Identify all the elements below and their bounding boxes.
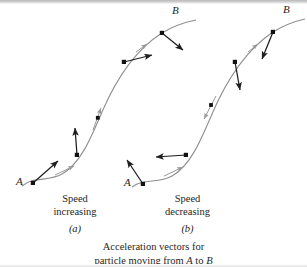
panel-b-start-label: A xyxy=(124,177,131,189)
panel-b-letter: (b) xyxy=(140,223,235,234)
acceleration-vector-a3 xyxy=(124,55,152,62)
panel-b-caption-line1: Speed xyxy=(140,193,235,204)
point-marker-a-B xyxy=(160,31,164,35)
point-marker-b-2 xyxy=(184,153,188,157)
curve-b xyxy=(132,19,305,187)
point-marker-b-4 xyxy=(233,60,237,64)
point-marker-b-3 xyxy=(209,103,213,107)
acceleration-vector-a2 xyxy=(75,128,77,155)
point-marker-a-A xyxy=(31,181,35,185)
panel-b-graphic xyxy=(127,19,305,187)
acceleration-vector-b3 xyxy=(235,62,240,90)
panel-a-letter: (a) xyxy=(30,223,120,234)
figure-caption: Acceleration vectors for particle moving… xyxy=(0,240,307,267)
panel-a-graphic xyxy=(22,20,196,186)
tangent-arrow-b3 xyxy=(248,44,258,52)
point-marker-b-A xyxy=(141,182,145,186)
panel-a-caption-line2: increasing xyxy=(30,206,120,217)
panel-b-caption-line2: decreasing xyxy=(140,206,235,217)
point-marker-a-4 xyxy=(122,60,126,64)
acceleration-vector-b2 xyxy=(156,155,186,157)
tangent-arrow-a1 xyxy=(55,166,74,175)
figure-caption-line1: Acceleration vectors for xyxy=(0,240,307,254)
point-marker-b-B xyxy=(271,30,275,34)
acceleration-vector-a1 xyxy=(33,161,58,183)
panel-a-start-label: A xyxy=(16,176,23,188)
point-marker-a-3 xyxy=(96,116,100,120)
panel-a-end-label: B xyxy=(172,5,179,17)
curve-a xyxy=(22,20,196,186)
panel-b-end-label: B xyxy=(283,4,290,16)
tangent-arrow-b2 xyxy=(204,96,216,119)
point-marker-a-2 xyxy=(75,153,79,157)
tangent-arrow-a3 xyxy=(136,44,147,52)
acceleration-vector-a4 xyxy=(162,33,183,50)
panel-a-caption-line1: Speed xyxy=(30,193,120,204)
